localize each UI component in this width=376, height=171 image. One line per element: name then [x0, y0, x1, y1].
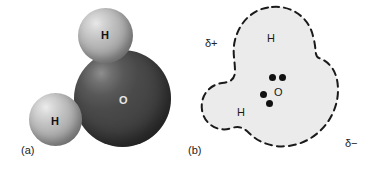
hydrogen-top-label-schematic: H — [267, 33, 275, 44]
bond-pair-dot-left — [260, 91, 267, 98]
hydrogen-left-label-schematic: H — [237, 107, 245, 118]
delta-minus-label: δ− — [345, 138, 358, 149]
lone-pair-dot-upper-right — [279, 74, 286, 81]
oxygen-label: O — [119, 95, 128, 106]
panel-a-space-filling-model: H H O (a) — [0, 0, 188, 171]
bond-pair-dot-lower — [266, 100, 273, 107]
oxygen-nucleus-label: O — [274, 86, 283, 98]
hydrogen-left-label: H — [51, 116, 59, 127]
water-molecule-figure: H H O (a) H H O δ+ δ− (b) — [0, 0, 376, 171]
panel-b-electron-cloud: H H O δ+ δ− (b) — [188, 0, 376, 171]
panel-a-caption: (a) — [21, 145, 34, 156]
lone-pair-dot-upper-left — [269, 74, 276, 81]
hydrogen-top-label: H — [101, 30, 109, 41]
delta-plus-label: δ+ — [205, 38, 218, 49]
panel-b-caption: (b) — [188, 145, 201, 156]
